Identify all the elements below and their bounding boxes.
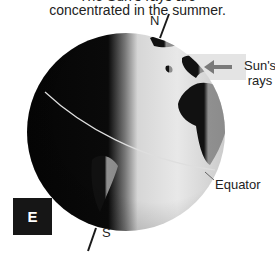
sun-rays-label-line1: Sun's xyxy=(244,58,275,73)
north-axis-line xyxy=(160,14,169,38)
sun-rays-label: Sun's rays xyxy=(244,58,275,88)
panel-badge: E xyxy=(13,198,52,235)
equator-label: Equator xyxy=(215,178,261,192)
sun-rays-label-line2: rays xyxy=(244,73,275,88)
south-axis-line xyxy=(88,228,96,251)
south-label: S xyxy=(102,226,111,240)
north-label: N xyxy=(150,14,159,28)
